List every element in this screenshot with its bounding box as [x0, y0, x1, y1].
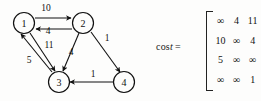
cost-label-italic-t: t [170, 41, 173, 52]
figure-container: 1 2 3 4 10 4 11 5 4 1 1 cost= ∞ 4 [0, 0, 261, 101]
edge-weight-1-3: 11 [44, 40, 53, 50]
cost-matrix-label: cost= [156, 41, 181, 52]
graph-nodes: 1 2 3 4 [14, 13, 135, 93]
matrix-cell: ∞ [212, 70, 229, 90]
edge-weight-4-3: 1 [91, 69, 96, 79]
matrix-cell: 4 [244, 31, 261, 51]
edge-weight-1-2: 10 [41, 3, 51, 13]
matrix-cell: ∞ [229, 70, 244, 90]
matrix-cell: ∞ [229, 50, 244, 70]
cost-label-text: cos [156, 41, 170, 52]
matrix-row: 10 ∞ 4 [212, 31, 261, 51]
graph-diagram: 1 2 3 4 10 4 11 5 4 1 1 [0, 0, 150, 101]
matrix-table: ∞ 4 11 10 ∞ 4 5 ∞ ∞ ∞ ∞ 1 [212, 11, 261, 89]
node-3-label: 3 [57, 77, 62, 88]
cost-matrix: cost= ∞ 4 11 10 ∞ 4 5 ∞ ∞ ∞ ∞ 1 [150, 0, 261, 101]
node-4-label: 4 [122, 77, 127, 88]
edge-weight-2-4: 1 [105, 33, 110, 43]
matrix-row: ∞ 4 11 [212, 11, 261, 31]
matrix-cell: 10 [212, 31, 229, 51]
node-1-label: 1 [22, 18, 27, 29]
matrix-cell: ∞ [244, 50, 261, 70]
edge-weight-2-3: 4 [69, 47, 74, 57]
equals-sign: = [175, 41, 181, 52]
matrix-cell: 4 [229, 11, 244, 31]
matrix-cell: 1 [244, 70, 261, 90]
node-2-label: 2 [81, 18, 86, 29]
matrix-cell: 5 [212, 50, 229, 70]
matrix-cell: ∞ [229, 31, 244, 51]
matrix-cell: ∞ [212, 11, 229, 31]
matrix-row: ∞ ∞ 1 [212, 70, 261, 90]
edge-1-3 [30, 33, 55, 71]
edge-weight-2-1: 4 [46, 26, 51, 36]
edge-weight-3-1: 5 [27, 55, 32, 65]
matrix-row: 5 ∞ ∞ [212, 50, 261, 70]
matrix-cell: 11 [244, 11, 261, 31]
